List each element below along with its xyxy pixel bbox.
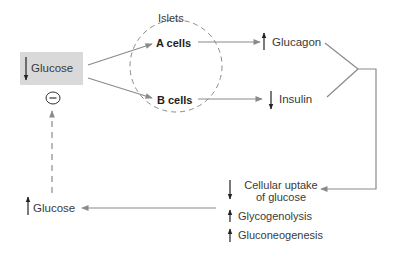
connector-insulin — [327, 69, 358, 97]
glycogenolysis-label: Glycogenolysis — [238, 210, 312, 223]
connector-glucagon — [325, 43, 358, 69]
cellular-uptake-label: Cellular uptake of glucose — [236, 179, 326, 203]
arrow-glucose-to-a-cells — [88, 44, 152, 65]
cellular-uptake-line1: Cellular uptake — [236, 179, 326, 191]
diagram-lines — [0, 0, 396, 256]
glucose-high-label: Glucose — [33, 202, 75, 215]
a-cells-label: A cells — [156, 37, 191, 50]
arrow-glucose-to-b-cells — [88, 78, 152, 98]
insulin-label: Insulin — [279, 93, 312, 106]
connector-to-effects — [321, 69, 376, 189]
b-cells-label: B cells — [157, 94, 192, 107]
gluconeogenesis-label: Gluconeogenesis — [238, 229, 323, 242]
glucose-low-label: Glucose — [31, 62, 73, 75]
glucagon-label: Glucagon — [272, 36, 321, 49]
cellular-uptake-line2: of glucose — [236, 191, 326, 203]
islets-label: Islets — [158, 12, 184, 25]
